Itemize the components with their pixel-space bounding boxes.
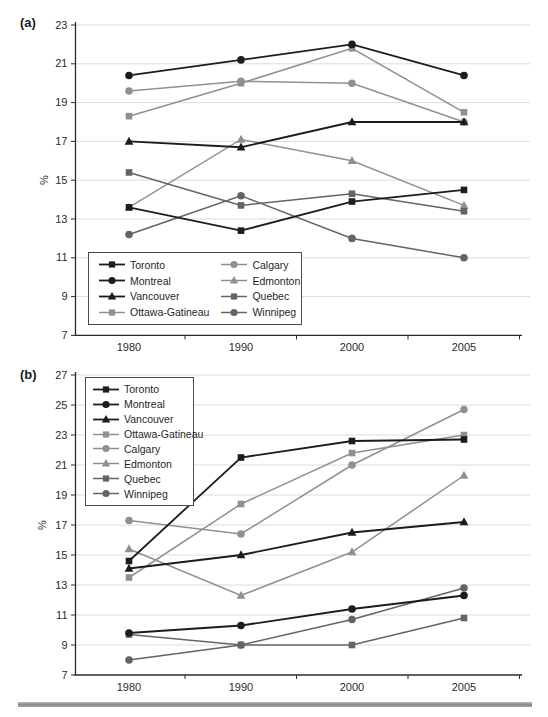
legend-marker <box>103 476 109 482</box>
legend-label: Edmonton <box>252 275 300 287</box>
y-tick-label: 21 <box>55 459 67 471</box>
marker-toronto-1980 <box>126 558 133 565</box>
series-line-toronto <box>129 190 464 231</box>
marker-montreal-1990 <box>237 622 245 630</box>
y-tick-label: 17 <box>55 519 67 531</box>
marker-ottawa-gatineau-1990 <box>238 501 245 508</box>
series-line-montreal <box>129 44 464 75</box>
marker-montreal-2005 <box>460 72 468 80</box>
series-line-montreal <box>129 596 464 634</box>
marker-toronto-2000 <box>349 198 356 205</box>
legend-marker <box>102 490 109 497</box>
chart-b-canvas: 791113151719212325271980199020002005% <box>0 360 548 700</box>
y-tick-label: 11 <box>56 251 67 263</box>
y-tick-label: 21 <box>55 57 67 69</box>
y-tick-label: 13 <box>55 213 67 225</box>
y-axis-label: % <box>38 175 50 185</box>
legend-item-montreal: Montreal <box>99 273 209 289</box>
legend-item-calgary: Calgary <box>93 443 203 455</box>
legend-label: Vancouver <box>130 290 179 302</box>
legend-label: Quebec <box>252 290 289 302</box>
legend-marker <box>102 401 109 408</box>
legend-label: Toronto <box>130 259 165 271</box>
marker-quebec-2000 <box>349 190 356 197</box>
legend-item-toronto: Toronto <box>93 383 203 395</box>
legend-item-vancouver: Vancouver <box>99 289 209 305</box>
legend-marker <box>109 309 115 315</box>
marker-winnipeg-1980 <box>125 656 133 664</box>
marker-winnipeg-2000 <box>348 235 356 243</box>
series-line-winnipeg <box>129 196 464 258</box>
marker-calgary-2005 <box>460 406 468 414</box>
y-tick-label: 15 <box>55 549 67 561</box>
toronto-square-marker-icon <box>99 259 125 270</box>
marker-calgary-1980 <box>125 517 133 525</box>
x-tick-label: 2005 <box>452 341 476 353</box>
y-axis-label: % <box>36 520 48 530</box>
legend-item-montreal: Montreal <box>93 398 203 410</box>
legend-marker <box>231 293 237 299</box>
legend-label: Quebec <box>124 473 161 485</box>
vancouver-triangle-marker-icon <box>93 414 119 425</box>
legend-marker <box>103 386 109 392</box>
montreal-circle-marker-icon <box>93 399 119 410</box>
figure: (a) 79111315171921231980199020002005% To… <box>0 0 548 717</box>
legend-label: Winnipeg <box>252 306 296 318</box>
legend-label: Calgary <box>252 259 288 271</box>
x-tick-label: 1980 <box>117 341 141 353</box>
legend-label: Edmonton <box>124 458 172 470</box>
legend-label: Montreal <box>124 398 165 410</box>
legend-marker <box>102 445 109 452</box>
marker-winnipeg-1990 <box>237 192 245 200</box>
marker-calgary-2000 <box>348 79 356 87</box>
y-tick-label: 15 <box>55 174 67 186</box>
marker-calgary-2000 <box>348 461 356 469</box>
x-tick-label: 2000 <box>340 681 364 693</box>
winnipeg-circle-marker-icon <box>93 488 119 499</box>
legend-item-ottawa-gatineau: Ottawa-Gatineau <box>99 304 209 320</box>
calgary-circle-marker-icon <box>93 443 119 454</box>
legend-item-calgary: Calgary <box>221 257 300 273</box>
legend-label: Ottawa-Gatineau <box>130 306 209 318</box>
calgary-circle-marker-icon <box>221 259 247 270</box>
legend-item-toronto: Toronto <box>99 257 209 273</box>
legend-label: Montreal <box>130 275 171 287</box>
legend-item-vancouver: Vancouver <box>93 413 203 425</box>
marker-ottawa-gatineau-1980 <box>126 574 133 581</box>
series-line-edmonton <box>129 139 464 207</box>
marker-toronto-1980 <box>126 204 133 211</box>
series-line-quebec <box>129 172 464 211</box>
legend-item-ottawa-gatineau: Ottawa-Gatineau <box>93 428 203 440</box>
marker-quebec-2005 <box>461 615 468 622</box>
edmonton-triangle-marker-icon <box>221 275 247 286</box>
marker-edmonton-2000 <box>348 547 357 555</box>
marker-winnipeg-2005 <box>460 254 468 262</box>
marker-calgary-1980 <box>125 87 133 95</box>
y-tick-label: 7 <box>61 329 67 341</box>
marker-edmonton-2005 <box>460 471 469 479</box>
y-tick-label: 25 <box>55 399 67 411</box>
marker-winnipeg-1990 <box>237 641 245 649</box>
marker-calgary-1990 <box>237 77 245 85</box>
y-tick-label: 27 <box>55 369 67 381</box>
y-tick-label: 19 <box>55 96 67 108</box>
legend-item-edmonton: Edmonton <box>221 273 300 289</box>
marker-quebec-2000 <box>349 642 356 649</box>
marker-montreal-1990 <box>237 56 245 64</box>
y-tick-label: 7 <box>61 669 67 681</box>
marker-toronto-1990 <box>238 227 245 234</box>
edmonton-triangle-marker-icon <box>93 458 119 469</box>
y-tick-label: 13 <box>55 579 67 591</box>
y-tick-label: 19 <box>55 489 67 501</box>
chart-a-legend: TorontoMontrealVancouverOttawa-GatineauC… <box>88 252 302 325</box>
ottawa-gatineau-square-marker-icon <box>99 307 125 318</box>
x-tick-label: 2000 <box>340 341 364 353</box>
y-tick-label: 9 <box>61 290 67 302</box>
marker-calgary-1990 <box>237 530 245 538</box>
marker-edmonton-1980 <box>125 544 134 552</box>
marker-toronto-1990 <box>238 454 245 461</box>
marker-toronto-2005 <box>461 436 468 443</box>
legend-label: Toronto <box>124 383 159 395</box>
vancouver-triangle-marker-icon <box>99 291 125 302</box>
marker-toronto-2005 <box>461 187 468 194</box>
